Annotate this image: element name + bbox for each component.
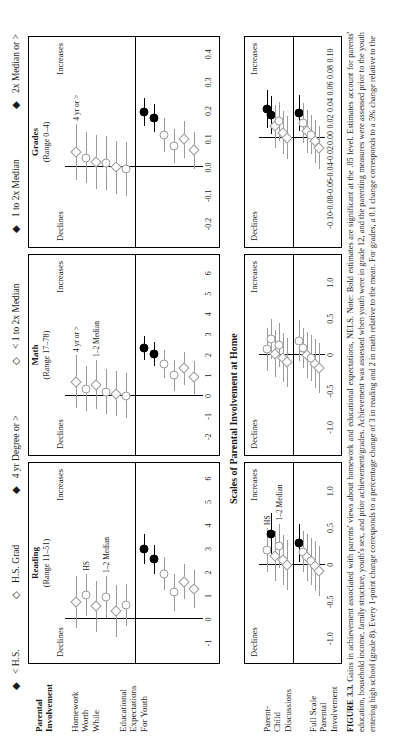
axis-tick-label: 0.04 [326, 98, 335, 112]
axis-tick-label: 5 [204, 292, 213, 296]
group-separator [293, 255, 294, 455]
data-point-marker [102, 387, 111, 396]
axis-tick-label: 2 [204, 353, 213, 357]
axis-tick-label: 0.5 [326, 314, 335, 324]
data-point-marker [90, 601, 101, 612]
panel-range-label: (Range 0–4) [42, 37, 51, 247]
point-annotation: 1–2 Median [92, 321, 101, 357]
panel-title: Reading [31, 463, 41, 663]
data-point-marker [178, 134, 189, 145]
legend-label: < H.S. [11, 649, 21, 674]
chart-panel-math: Math(Range 17–78)DeclinesIncreases-2-101… [28, 254, 220, 456]
axis-tick-label: -0.2 [204, 218, 213, 231]
group-separator [135, 37, 136, 247]
axis-tick-label: 0.2 [204, 106, 213, 116]
legend-marker-icon: ◆ [11, 221, 21, 237]
axis-tick-label: 4 [204, 523, 213, 527]
axis-tick-label: 1.0 [326, 278, 335, 288]
data-point-marker [170, 371, 179, 380]
data-point-marker [122, 164, 131, 173]
axis-tick-label: 1 [204, 373, 213, 377]
legend-item-1: ◇H.S. Grad [11, 545, 21, 603]
data-point-marker [70, 596, 81, 607]
axis-tick-label: -0.5 [326, 385, 335, 398]
row-label-parent-child-discussions: Parent-ChildDiscussions [262, 689, 293, 732]
legend-marker-icon: ◇ [11, 587, 21, 603]
data-point-marker [188, 372, 199, 383]
axis-tick-label: -0.06 [326, 179, 335, 196]
axis-tick-label: 0.08 [326, 65, 335, 79]
axis-tick-label: 0.4 [204, 49, 213, 59]
increases-label: Increases [55, 43, 65, 75]
axis-tick-label: -0.1 [204, 189, 213, 202]
home-scales-title: Scales of Parental Involvement at Home [228, 333, 239, 504]
axis-tick-label: 0.00 [326, 131, 335, 145]
data-point-marker [140, 544, 149, 553]
data-point-marker [170, 588, 179, 597]
row-label-full-scale: Full ScaleParentalInvolvement [308, 687, 339, 733]
axis-tick-label: 5 [204, 500, 213, 504]
increases-label: Increases [55, 261, 65, 293]
chart-panel-grades_home: DeclinesIncreases-0.10-0.08-0.06-0.04-0.… [244, 36, 342, 248]
data-point-marker [160, 360, 169, 369]
legend-item-3: ◇< 1 to 2x Median [11, 284, 21, 370]
row-label-homework-worth-while: HomeworkWorthWhile [70, 692, 101, 733]
caption-label: FIGURE 3.3. [346, 684, 355, 732]
data-point-marker [178, 363, 189, 374]
data-point-marker [178, 576, 189, 587]
axis-tick-label: 0.1 [204, 134, 213, 144]
data-point-marker [110, 162, 121, 173]
legend-label: 2x Median or > [11, 34, 21, 93]
axis-tick-label: 6 [204, 476, 213, 480]
increases-label: Increases [249, 469, 259, 501]
axis-tick-label: -1 [204, 413, 213, 420]
axis-tick-label: 3 [204, 333, 213, 337]
axis-tick-label: 0.10 [326, 48, 335, 62]
group-separator [135, 255, 136, 455]
axis-tick-label: 3 [204, 547, 213, 551]
data-point-marker [110, 606, 121, 617]
axis-tick-label: 0.02 [326, 114, 335, 128]
legend-label: H.S. Grad [11, 545, 21, 583]
increases-label: Increases [55, 469, 65, 501]
parental-involvement-header: Parental Involvement [34, 684, 55, 732]
legend-label: 1 to 2x Median [11, 159, 21, 217]
declines-label: Declines [249, 627, 259, 657]
axis-tick-label: 0.0 [204, 162, 213, 172]
figure-page: ◆< H.S.◇H.S. Grad◆4 yr Degree or >◇< 1 t… [0, 0, 412, 736]
panel-range-label: (Range 11–51) [42, 463, 51, 663]
data-point-marker [90, 379, 101, 390]
point-annotation: 1–2 Median [102, 537, 111, 573]
axis-tick-label: -1 [204, 640, 213, 647]
declines-label: Declines [55, 211, 65, 241]
axis-tick-label: -0.08 [326, 196, 335, 213]
axis-tick-label: 4 [204, 312, 213, 316]
data-point-marker [160, 130, 169, 139]
chart-panel-reading_home: DeclinesIncreases-1.0-0.500.51.0HS1–2 Me… [244, 462, 342, 664]
axis-tick-label: -0.04 [326, 163, 335, 180]
axis-tick-label: -1.0 [326, 632, 335, 645]
group-separator [135, 463, 136, 663]
axis-tick-label: 0 [326, 563, 335, 567]
data-point-marker [188, 145, 199, 156]
group-separator [293, 37, 294, 247]
point-annotation: 4 yr or > [72, 95, 81, 121]
x-axis: -10123456 [203, 463, 219, 663]
x-axis: -0.2-0.10.00.10.20.30.4 [203, 37, 219, 247]
axis-tick-label: 0.5 [326, 523, 335, 533]
axis-tick-label: 6 [204, 271, 213, 275]
data-point-marker [170, 142, 179, 151]
declines-label: Declines [249, 211, 259, 241]
data-point-marker [188, 583, 199, 594]
panel-title: Math [31, 255, 41, 455]
legend-marker-icon: ◇ [11, 353, 21, 369]
increases-label: Increases [249, 43, 259, 75]
legend-item-5: ◆2x Median or > [11, 34, 21, 113]
point-annotation: 4 yr or > [72, 326, 81, 352]
data-point-marker [150, 113, 159, 122]
data-point-marker [122, 601, 131, 610]
data-point-marker [122, 391, 131, 400]
legend-label: 4 yr Degree or > [11, 415, 21, 478]
x-axis: -1.0-0.500.51.0 [325, 463, 341, 663]
x-axis: -1.0-0.500.51.0 [325, 255, 341, 455]
